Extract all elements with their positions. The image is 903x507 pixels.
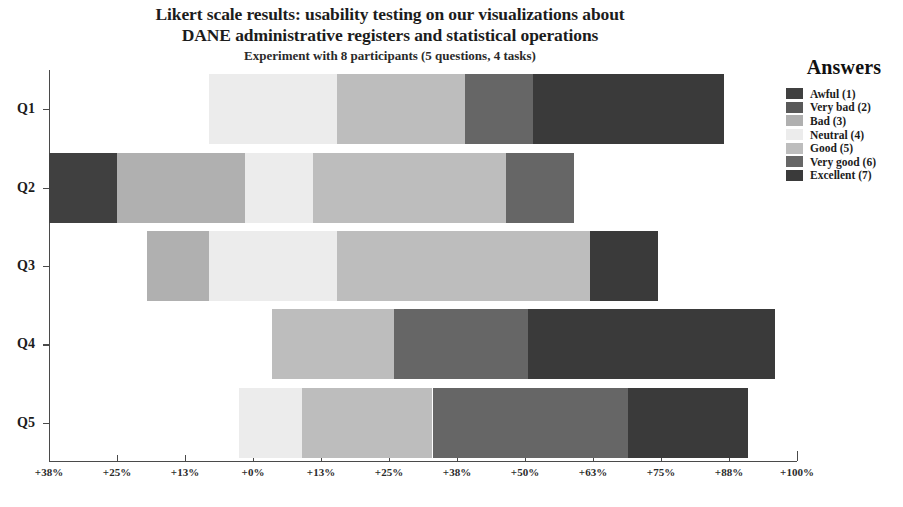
bar-segment[interactable] (628, 388, 748, 458)
y-axis-tick (43, 423, 50, 424)
legend-swatch-icon (786, 129, 803, 140)
legend-item-label: Very bad (2) (810, 101, 871, 113)
bar-q4[interactable] (272, 309, 775, 379)
likert-chart-figure: Likert scale results: usability testing … (0, 0, 903, 507)
legend-item-label: Bad (3) (810, 115, 846, 127)
y-axis-tick (43, 266, 50, 267)
y-axis-tick (43, 344, 50, 345)
x-axis-tick-label: +25% (375, 466, 403, 478)
legend-items: Awful (1)Very bad (2)Bad (3)Neutral (4)G… (786, 87, 903, 182)
y-axis-label-q2: Q2 (17, 180, 35, 196)
legend-swatch-icon (786, 102, 803, 113)
legend-swatch-icon (786, 88, 803, 99)
bar-segment[interactable] (337, 74, 465, 144)
x-axis-tick-label: +75% (647, 466, 675, 478)
legend: Answers Awful (1)Very bad (2)Bad (3)Neut… (781, 56, 903, 182)
bar-segment[interactable] (209, 231, 337, 301)
bar-segment[interactable] (394, 309, 527, 379)
chart-subtitle: Experiment with 8 participants (5 questi… (0, 48, 780, 64)
legend-item-label: Good (5) (810, 142, 853, 154)
x-axis-tick-label: +50% (511, 466, 539, 478)
y-axis-label-q3: Q3 (17, 258, 35, 274)
chart-title-line-2: DANE administrative registers and statis… (0, 25, 780, 46)
bar-segment[interactable] (590, 231, 658, 301)
bar-segment[interactable] (239, 388, 302, 458)
bar-segment[interactable] (117, 153, 245, 223)
legend-item[interactable]: Awful (1) (786, 87, 903, 101)
legend-swatch-icon (786, 143, 803, 154)
legend-item[interactable]: Excellent (7) (786, 169, 903, 183)
x-axis-tick (185, 455, 186, 461)
bar-q2[interactable] (49, 153, 574, 223)
bar-segment[interactable] (337, 231, 590, 301)
x-axis-tick-label: +0% (242, 466, 265, 478)
y-axis-label-q4: Q4 (17, 336, 35, 352)
bar-segment[interactable] (465, 74, 533, 144)
x-axis-tick-label: +38% (35, 466, 63, 478)
legend-item[interactable]: Neutral (4) (786, 128, 903, 142)
legend-swatch-icon (786, 115, 803, 126)
bar-segment[interactable] (272, 309, 394, 379)
bar-q3[interactable] (147, 231, 658, 301)
legend-item-label: Neutral (4) (810, 129, 864, 141)
legend-item[interactable]: Very bad (2) (786, 101, 903, 115)
y-axis-label-q5: Q5 (17, 415, 35, 431)
plot-area: +38%+25%+13%+0%+13%+25%+38%+50%+63%+75%+… (49, 70, 797, 462)
bar-segment[interactable] (528, 309, 776, 379)
bar-segment[interactable] (147, 231, 210, 301)
legend-item-label: Awful (1) (810, 88, 855, 100)
bar-q1[interactable] (209, 74, 723, 144)
y-axis-tick (43, 109, 50, 110)
x-axis-tick (797, 451, 798, 461)
legend-item-label: Very good (6) (810, 156, 876, 168)
legend-swatch-icon (786, 170, 803, 181)
bar-segment[interactable] (49, 153, 117, 223)
legend-item[interactable]: Bad (3) (786, 114, 903, 128)
bar-segment[interactable] (506, 153, 574, 223)
legend-item-label: Excellent (7) (810, 169, 872, 181)
y-axis-label-q1: Q1 (17, 101, 35, 117)
bar-segment[interactable] (302, 388, 433, 458)
bar-segment[interactable] (209, 74, 337, 144)
x-axis-tick-label: +13% (307, 466, 335, 478)
legend-item[interactable]: Very good (6) (786, 155, 903, 169)
legend-title: Answers (785, 56, 903, 79)
x-axis-tick (49, 451, 50, 461)
x-axis-tick-label: +38% (443, 466, 471, 478)
legend-item[interactable]: Good (5) (786, 141, 903, 155)
bar-q5[interactable] (239, 388, 748, 458)
x-axis-tick-label: +13% (171, 466, 199, 478)
x-axis-tick-label: +25% (103, 466, 131, 478)
x-axis-tick-label: +88% (715, 466, 743, 478)
x-axis-line (49, 461, 797, 462)
bar-segment[interactable] (433, 388, 629, 458)
bar-segment[interactable] (313, 153, 506, 223)
x-axis-tick-label: +100% (780, 466, 814, 478)
bar-segment[interactable] (245, 153, 313, 223)
x-axis-tick-label: +63% (579, 466, 607, 478)
chart-title: Likert scale results: usability testing … (0, 4, 780, 46)
legend-swatch-icon (786, 156, 803, 167)
x-axis-tick (117, 455, 118, 461)
chart-title-line-1: Likert scale results: usability testing … (0, 4, 780, 25)
bar-segment[interactable] (533, 74, 723, 144)
